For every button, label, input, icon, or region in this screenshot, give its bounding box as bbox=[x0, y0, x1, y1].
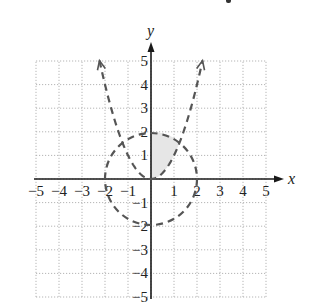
x-tick-label: 1 bbox=[170, 183, 178, 199]
x-tick-label: 5 bbox=[262, 183, 270, 199]
y-tick-label: 3 bbox=[141, 100, 149, 116]
x-tick-label: −4 bbox=[51, 183, 67, 199]
x-tick-label: −3 bbox=[74, 183, 90, 199]
x-axis-arrow-icon bbox=[274, 176, 284, 183]
y-tick-label: −1 bbox=[132, 195, 148, 211]
y-tick-label: −3 bbox=[132, 242, 148, 258]
chart: x y −5−4−3−2−112345 −5−4−3−2−112345 bbox=[0, 0, 315, 304]
x-tick-label: 4 bbox=[239, 183, 247, 199]
x-tick-label: 3 bbox=[216, 183, 224, 199]
x-axis-label: x bbox=[287, 170, 295, 187]
y-axis-label: y bbox=[145, 22, 155, 40]
y-tick-label: 5 bbox=[141, 53, 149, 69]
y-tick-label: 4 bbox=[141, 77, 149, 93]
x-tick-labels: −5−4−3−2−112345 bbox=[28, 183, 270, 199]
y-tick-label: −4 bbox=[132, 265, 148, 281]
y-tick-label: 1 bbox=[141, 147, 149, 163]
y-tick-label: −2 bbox=[132, 218, 148, 234]
y-axis-arrow-icon bbox=[148, 42, 155, 52]
x-tick-label: −5 bbox=[28, 183, 44, 199]
y-tick-label: −5 bbox=[132, 289, 148, 304]
plot-area: x y −5−4−3−2−112345 −5−4−3−2−112345 bbox=[0, 0, 315, 304]
y-tick-label: 2 bbox=[141, 124, 149, 140]
cropped-text-fragment bbox=[226, 0, 231, 3]
